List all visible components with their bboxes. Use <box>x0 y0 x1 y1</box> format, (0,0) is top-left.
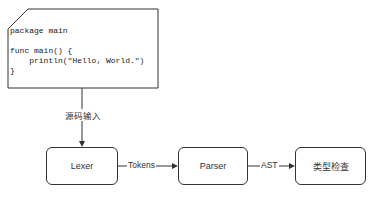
edge-label-source-input: 源码输入 <box>64 109 102 121</box>
code-line <box>10 36 144 46</box>
node-label: Parser <box>200 161 227 171</box>
edge-label-ast: AST <box>260 160 279 170</box>
code-line: println("Hello, World.") <box>10 56 144 66</box>
code-line: } <box>10 66 144 76</box>
node-label: Lexer <box>71 161 94 171</box>
node-label: 类型检查 <box>313 160 349 173</box>
code-line: package main <box>10 26 144 36</box>
node-type-check: 类型检查 <box>295 147 366 185</box>
node-parser: Parser <box>178 147 248 185</box>
node-lexer: Lexer <box>46 147 118 185</box>
code-snippet: package main func main() { println("Hell… <box>10 26 144 76</box>
edge-label-tokens: Tokens <box>127 160 156 170</box>
code-line: func main() { <box>10 46 144 56</box>
